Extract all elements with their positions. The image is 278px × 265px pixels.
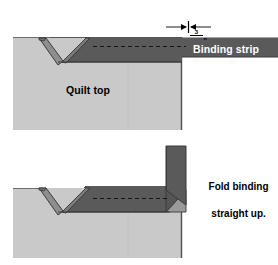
top-panel-group (13, 21, 278, 130)
measurement-numerator: 3 (190, 29, 203, 36)
quilt-top-label: Quilt top (66, 84, 110, 96)
fold-instruction-label: Fold binding straight up. (191, 166, 275, 234)
bottom-panel-group (13, 146, 186, 258)
binding-strip-label: Binding strip (193, 43, 259, 55)
measurement-fraction: 3 8 " (190, 17, 207, 66)
quilt-binding-figure: 3 8 " Binding strip Quilt top Fold bindi… (0, 0, 278, 265)
fold-instruction-line-1: Fold binding (209, 181, 269, 192)
measurement-label: 3 8 " (182, 8, 207, 74)
fold-instruction-line-2: straight up. (211, 208, 265, 219)
